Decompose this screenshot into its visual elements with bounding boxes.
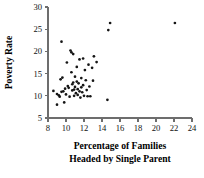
x-axis-title-line: Percentage of Families bbox=[74, 140, 167, 151]
y-axis-tick-label: 10 bbox=[33, 91, 42, 101]
data-point bbox=[86, 95, 89, 98]
x-axis-tick-label: 24 bbox=[188, 123, 197, 133]
data-point bbox=[65, 93, 68, 96]
data-point bbox=[70, 71, 73, 74]
y-axis-tick-label: 20 bbox=[33, 46, 42, 56]
data-point bbox=[78, 90, 81, 93]
y-axis-tick-label: 25 bbox=[33, 24, 42, 34]
data-point bbox=[95, 61, 98, 64]
data-point bbox=[81, 91, 84, 94]
data-point bbox=[63, 101, 66, 104]
x-axis-tick-label: 10 bbox=[62, 123, 71, 133]
data-point bbox=[73, 88, 76, 91]
data-point bbox=[72, 81, 75, 84]
data-point bbox=[64, 87, 67, 90]
x-axis-tick-label: 16 bbox=[116, 123, 125, 133]
data-point bbox=[62, 90, 65, 93]
x-axis-tick-label: 8 bbox=[46, 123, 50, 133]
data-point bbox=[106, 98, 109, 101]
data-point bbox=[174, 22, 177, 25]
data-point bbox=[87, 63, 90, 66]
data-point bbox=[79, 96, 82, 99]
data-point bbox=[60, 40, 63, 43]
data-point bbox=[67, 86, 70, 89]
data-point bbox=[109, 22, 112, 25]
x-axis-title-line: Headed by Single Parent bbox=[69, 153, 171, 164]
data-point bbox=[76, 88, 79, 91]
data-point bbox=[93, 55, 96, 58]
data-point bbox=[58, 95, 61, 98]
data-point bbox=[89, 95, 92, 98]
data-point bbox=[85, 89, 88, 92]
data-point bbox=[82, 84, 85, 87]
x-axis-tick-label: 20 bbox=[152, 123, 161, 133]
chart-canvas: 5101520253081012141618202224Poverty Rate… bbox=[0, 0, 204, 178]
data-point bbox=[77, 82, 80, 85]
data-point bbox=[66, 61, 69, 64]
y-axis-title: Poverty Rate bbox=[3, 35, 14, 89]
data-point bbox=[80, 86, 83, 89]
data-point bbox=[52, 90, 55, 93]
data-point bbox=[82, 57, 85, 60]
data-point bbox=[72, 53, 75, 56]
x-axis-tick-label: 18 bbox=[134, 123, 143, 133]
data-point bbox=[68, 95, 71, 98]
data-point bbox=[84, 79, 87, 82]
scatter-plot-figure: 5101520253081012141618202224Poverty Rate… bbox=[0, 0, 204, 178]
data-point bbox=[88, 85, 91, 88]
y-axis-tick-label: 15 bbox=[33, 69, 42, 79]
data-point bbox=[84, 69, 87, 72]
data-point bbox=[61, 76, 64, 79]
x-axis-tick-label: 12 bbox=[80, 123, 89, 133]
data-point bbox=[83, 94, 86, 97]
data-point bbox=[78, 58, 81, 61]
data-point bbox=[75, 66, 78, 69]
y-axis-tick-label: 5 bbox=[38, 113, 42, 123]
data-point bbox=[80, 77, 83, 80]
data-point bbox=[76, 94, 79, 97]
data-point bbox=[107, 29, 110, 32]
data-point bbox=[92, 79, 95, 82]
data-point bbox=[74, 86, 77, 89]
y-axis-tick-label: 30 bbox=[33, 2, 42, 12]
data-point bbox=[56, 103, 59, 106]
data-point bbox=[91, 66, 94, 69]
data-point-group bbox=[52, 22, 176, 106]
x-axis-tick-label: 22 bbox=[170, 123, 179, 133]
data-point bbox=[73, 94, 76, 97]
x-axis-tick-label: 14 bbox=[98, 123, 107, 133]
data-point bbox=[74, 75, 77, 78]
